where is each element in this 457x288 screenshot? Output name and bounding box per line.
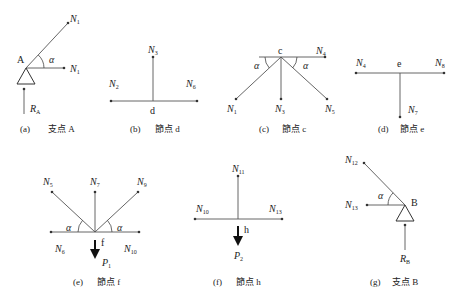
label-N8: N8: [434, 57, 445, 69]
angle-label-left: α: [254, 60, 260, 71]
caption-tag-e: (e): [73, 277, 83, 287]
caption-tag-c: (c): [259, 124, 269, 134]
label-N10: N10: [123, 243, 137, 255]
label-N6: N6: [54, 243, 65, 255]
label-N7: N7: [89, 176, 100, 188]
caption-tag-d: (d): [378, 124, 389, 134]
angle-label: α: [49, 54, 55, 65]
free-body-diagrams: N1 N1 A α RA (a) 支点 A N3 N2 N6 d (b) 節点 …: [0, 0, 457, 288]
support-triangle-icon: [17, 68, 35, 84]
label-N1-diag: N1: [69, 13, 80, 25]
angle-label: α: [378, 190, 384, 201]
label-N1: N1: [226, 103, 237, 115]
node-label-f: f: [101, 237, 105, 248]
caption-tag-b: (b): [130, 124, 141, 134]
figure-d-node-e: N4 N8 e N7 (d) 節点 e: [355, 57, 445, 134]
figure-g-support-B: N12 N13 α B RB (g) 支点 B: [344, 154, 418, 287]
angle-arc-left: [265, 57, 269, 68]
label-N4: N4: [355, 57, 366, 69]
figure-b-node-d: N3 N2 N6 d (b) 節点 d: [108, 44, 197, 134]
label-N12: N12: [344, 154, 358, 166]
label-N4: N4: [315, 45, 326, 57]
caption-tag-a: (a): [20, 124, 30, 134]
label-P1: P1: [101, 257, 111, 269]
angle-label-left: α: [66, 222, 72, 233]
caption-tag-f: (f): [213, 277, 222, 287]
label-N5: N5: [42, 176, 53, 188]
label-P2: P2: [233, 250, 243, 262]
label-RB: RB: [399, 253, 410, 265]
label-N2: N2: [108, 78, 119, 90]
caption-tag-g: (g): [370, 277, 381, 287]
angle-arc-right: [108, 220, 113, 232]
node-label-c: c: [278, 45, 283, 56]
force-N12: [364, 163, 405, 205]
label-N9: N9: [136, 176, 147, 188]
force-N1-diagonal: [26, 23, 68, 68]
label-N3: N3: [274, 103, 285, 115]
force-N5: [52, 192, 95, 232]
label-N5: N5: [324, 103, 335, 115]
node-label-B: B: [411, 197, 418, 208]
angle-label-right: α: [303, 60, 309, 71]
figure-a-support-A: N1 N1 A α RA (a) 支点 A: [17, 13, 80, 134]
angle-label-right: α: [117, 222, 123, 233]
node-label-A: A: [17, 54, 25, 65]
caption-text-e: 節点 f: [97, 276, 120, 287]
figure-c-node-c: c N4 α α N1 N3 N5 (c) 節点 c: [226, 45, 335, 134]
label-N13: N13: [268, 203, 282, 215]
caption-text-f: 節点 h: [236, 276, 261, 287]
label-N11: N11: [231, 163, 244, 175]
label-N10: N10: [195, 203, 209, 215]
node-label-e: e: [397, 58, 402, 69]
figure-f-node-h: N11 N10 N13 h P2 (f) 節点 h: [195, 163, 282, 287]
angle-arc-right: [293, 57, 297, 68]
caption-text-b: 節点 d: [155, 123, 180, 134]
label-N13: N13: [344, 199, 358, 211]
label-N7: N7: [407, 104, 418, 116]
node-label-h: h: [244, 224, 249, 235]
angle-arc: [38, 55, 44, 68]
caption-text-d: 節点 e: [400, 123, 424, 134]
label-N1-horiz: N1: [69, 63, 80, 75]
caption-text-a: 支点 A: [48, 123, 75, 134]
angle-arc-left: [78, 220, 83, 232]
label-N6: N6: [185, 78, 196, 90]
label-N3: N3: [147, 44, 158, 56]
caption-text-g: 支点 B: [392, 276, 418, 287]
figure-e-node-f: N5 N7 N9 N6 N10 α α f P1 (e) 節点 f: [42, 176, 147, 287]
caption-text-c: 節点 c: [282, 123, 306, 134]
label-RA: RA: [29, 103, 41, 115]
node-label-d: d: [150, 105, 155, 116]
angle-arc: [388, 193, 393, 205]
